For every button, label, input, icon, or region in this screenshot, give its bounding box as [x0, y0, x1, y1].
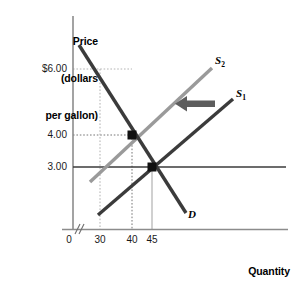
x-axis-title-line-1: Quantity [166, 265, 290, 277]
equilibrium-point-new [128, 131, 137, 140]
equilibrium-point-original [148, 163, 157, 172]
y-tick-label-4: 4.00 [23, 129, 67, 141]
y-axis-title: Price (dollars per gallon) [12, 10, 98, 146]
supply-demand-chart: Price (dollars per gallon) Quantity (mil… [0, 0, 294, 286]
x-tick-label-45: 45 [141, 234, 163, 246]
curve-label-s1-sub: 1 [242, 93, 246, 102]
y-axis-title-line-3: per gallon) [12, 109, 98, 121]
x-axis-title: Quantity (millions of gallons per month) [166, 240, 290, 286]
curve-label-s2-sub: 2 [221, 60, 225, 69]
x-tick-label-40: 40 [121, 234, 143, 246]
y-tick-label-3: 3.00 [23, 161, 67, 173]
x-tick-label-0: 0 [58, 234, 80, 246]
y-axis-title-line-1: Price [12, 35, 98, 47]
y-tick-label-6: $6.00 [23, 63, 67, 75]
curve-label-s2: S2 [215, 54, 225, 70]
curve-label-d: D [188, 208, 196, 221]
x-tick-label-30: 30 [89, 234, 111, 246]
curve-label-s1: S1 [236, 87, 246, 103]
